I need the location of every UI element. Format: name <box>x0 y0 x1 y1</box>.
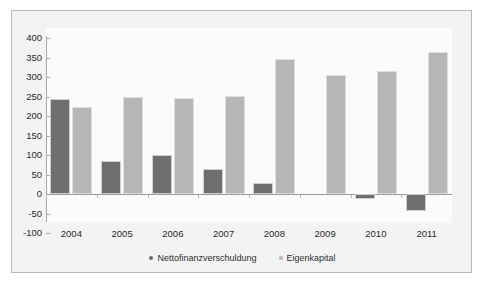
y-tick-label: 400 <box>8 33 42 43</box>
y-tick-label: 150 <box>8 131 42 141</box>
bar-eigenkapital-2007 <box>225 96 245 194</box>
y-tick-label: 250 <box>8 92 42 102</box>
x-tick-label-2006: 2006 <box>162 228 183 239</box>
y-tick-label: 300 <box>8 72 42 82</box>
y-tick-label: 0 <box>8 189 42 199</box>
x-tick-label-2007: 2007 <box>213 228 234 239</box>
legend-item-nettofinanzverschuldung[interactable]: Nettofinanzverschuldung <box>149 253 256 263</box>
x-tick-label-2010: 2010 <box>365 228 386 239</box>
bar-eigenkapital-2004 <box>72 107 92 194</box>
y-tick-label: 350 <box>8 53 42 63</box>
x-tick-mark <box>249 195 250 198</box>
bar-nettofinanzverschuldung-2005 <box>101 161 121 194</box>
bar-nettofinanzverschuldung-2010 <box>355 194 375 199</box>
y-tick-label: 100 <box>8 150 42 160</box>
x-tick-mark <box>148 195 149 198</box>
bar-eigenkapital-2010 <box>377 71 397 194</box>
x-tick-label-2004: 2004 <box>61 228 82 239</box>
legend-label: Eigenkapital <box>287 253 336 263</box>
x-tick-mark <box>300 195 301 198</box>
legend-label: Nettofinanzverschuldung <box>157 253 256 263</box>
y-tick-label: -100 <box>8 228 42 238</box>
legend-item-eigenkapital[interactable]: Eigenkapital <box>279 253 336 263</box>
x-tick-mark <box>97 195 98 198</box>
bar-nettofinanzverschuldung-2011 <box>406 194 426 211</box>
y-tick-label: -50 <box>8 209 42 219</box>
y-axis-tick-labels: 400350300250200150100500-50-100 <box>4 0 42 284</box>
y-tick-label: 200 <box>8 111 42 121</box>
x-tick-label-2011: 2011 <box>416 228 436 239</box>
bar-eigenkapital-2006 <box>174 98 194 194</box>
x-tick-mark <box>351 195 352 198</box>
x-tick-label-2009: 2009 <box>315 228 336 239</box>
bar-eigenkapital-2009 <box>326 75 346 194</box>
x-tick-mark <box>46 195 47 198</box>
chart-legend: NettofinanzverschuldungEigenkapital <box>0 253 485 263</box>
bar-nettofinanzverschuldung-2006 <box>152 155 172 194</box>
bar-nettofinanzverschuldung-2008 <box>253 183 273 194</box>
bar-group <box>46 0 452 284</box>
bar-eigenkapital-2011 <box>428 52 448 194</box>
dot-marker-icon <box>279 256 283 260</box>
bar-nettofinanzverschuldung-2007 <box>203 169 223 194</box>
chart-container: 400350300250200150100500-50-100 20042005… <box>0 0 485 284</box>
x-tick-label-2008: 2008 <box>264 228 285 239</box>
bar-eigenkapital-2008 <box>275 59 295 194</box>
x-tick-mark <box>198 195 199 198</box>
x-tick-label-2005: 2005 <box>112 228 133 239</box>
y-tick-label: 50 <box>8 170 42 180</box>
bar-eigenkapital-2005 <box>123 97 143 194</box>
x-tick-mark <box>401 195 402 198</box>
dot-marker-icon <box>149 256 153 260</box>
bar-nettofinanzverschuldung-2004 <box>50 99 70 194</box>
